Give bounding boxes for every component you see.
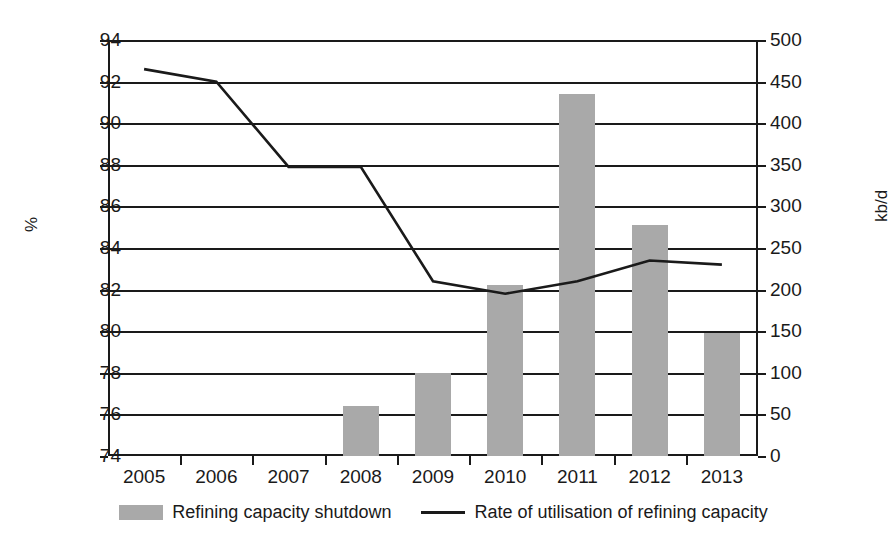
- y-axis-left-tick-label: 82: [100, 279, 121, 301]
- y-axis-left-tick-label: 94: [100, 29, 121, 51]
- y-axis-right-tick: [758, 248, 766, 250]
- x-axis-tick-label: 2011: [557, 466, 598, 488]
- x-axis-tick: [541, 456, 543, 465]
- y-axis-right-tick: [758, 290, 766, 292]
- legend-item: Refining capacity shutdown: [119, 502, 391, 523]
- x-axis-tick-label: 2008: [340, 466, 382, 488]
- y-axis-left-tick-label: 92: [100, 71, 121, 93]
- y-axis-right-tick-label: 100: [770, 362, 802, 384]
- y-axis-left-tick-label: 78: [100, 362, 121, 384]
- y-axis-right-tick: [758, 331, 766, 333]
- y-axis-right-title: kb/d: [872, 190, 892, 222]
- gridline: [108, 206, 758, 208]
- y-axis-left-tick-label: 76: [100, 403, 121, 425]
- bar: [632, 225, 668, 456]
- y-axis-left-tick-label: 86: [100, 195, 121, 217]
- x-axis-tick-label: 2005: [123, 466, 165, 488]
- y-axis-right-tick: [758, 165, 766, 167]
- bar: [704, 333, 740, 456]
- x-axis-tick-label: 2010: [484, 466, 526, 488]
- y-axis-right-tick-label: 200: [770, 279, 802, 301]
- x-axis-tick-label: 2007: [267, 466, 309, 488]
- x-axis-tick-label: 2009: [412, 466, 454, 488]
- x-axis-tick: [614, 456, 616, 465]
- y-axis-left-tick-label: 90: [100, 112, 121, 134]
- gridline: [108, 123, 758, 125]
- legend-item-label: Rate of utilisation of refining capacity: [474, 502, 767, 523]
- y-axis-left-title: %: [22, 217, 42, 232]
- chart-legend: Refining capacity shutdownRate of utilis…: [0, 502, 887, 523]
- x-axis-tick: [397, 456, 399, 465]
- y-axis-right-tick-label: 350: [770, 154, 802, 176]
- x-axis-tick: [252, 456, 254, 465]
- y-axis-right-tick-label: 500: [770, 29, 802, 51]
- legend-line-swatch-icon: [421, 511, 465, 514]
- gridline: [108, 165, 758, 167]
- y-axis-right-tick-label: 0: [770, 445, 781, 467]
- y-axis-right-tick-label: 250: [770, 237, 802, 259]
- y-axis-right-tick-label: 150: [770, 320, 802, 342]
- y-axis-right-tick: [758, 373, 766, 375]
- gridline: [108, 82, 758, 84]
- x-axis-tick-label: 2006: [195, 466, 237, 488]
- bar: [559, 94, 595, 456]
- y-axis-left-tick-label: 80: [100, 320, 121, 342]
- y-axis-right-tick: [758, 40, 766, 42]
- x-axis-tick-label: 2013: [701, 466, 743, 488]
- x-axis-tick-label: 2012: [629, 466, 671, 488]
- x-axis-tick: [686, 456, 688, 465]
- y-axis-left-tick-label: 74: [100, 445, 121, 467]
- x-axis-tick: [325, 456, 327, 465]
- y-axis-left-tick-label: 84: [100, 237, 121, 259]
- legend-item-label: Refining capacity shutdown: [172, 502, 391, 523]
- gridline: [108, 40, 758, 42]
- y-axis-right-tick-label: 50: [770, 403, 791, 425]
- x-axis-tick: [469, 456, 471, 465]
- y-axis-right-tick: [758, 206, 766, 208]
- x-axis-tick: [180, 456, 182, 465]
- bar: [487, 285, 523, 456]
- legend-item: Rate of utilisation of refining capacity: [421, 502, 767, 523]
- y-axis-right-tick: [758, 82, 766, 84]
- y-axis-left-tick-label: 88: [100, 154, 121, 176]
- bar: [415, 373, 451, 456]
- y-axis-right-tick: [758, 123, 766, 125]
- bar: [343, 406, 379, 456]
- y-axis-right-tick-label: 400: [770, 112, 802, 134]
- y-axis-right-tick: [758, 456, 766, 458]
- legend-bar-swatch-icon: [119, 505, 163, 520]
- y-axis-right-tick-label: 300: [770, 195, 802, 217]
- y-axis-right-tick: [758, 414, 766, 416]
- y-axis-right-tick-label: 450: [770, 71, 802, 93]
- plot-area: [108, 40, 758, 456]
